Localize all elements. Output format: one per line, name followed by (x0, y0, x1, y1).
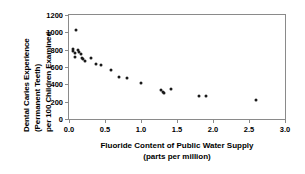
x-axis-tick (249, 119, 250, 123)
x-axis-tick (141, 119, 142, 123)
y-axis-tick (65, 15, 69, 16)
plot-canvas (69, 15, 285, 119)
data-point (255, 98, 258, 101)
y-axis-tick (65, 102, 69, 103)
x-axis-tick-label: 0.0 (64, 125, 74, 134)
y-axis-title-line2: (Permanent Teeth) (33, 64, 42, 132)
data-point (75, 28, 78, 31)
x-axis-tick-label: 0.5 (100, 125, 110, 134)
x-axis-tick (213, 119, 214, 123)
data-point (95, 62, 98, 65)
data-point (118, 76, 121, 79)
x-axis-tick (285, 119, 286, 123)
y-axis-tick-label: 600 (50, 63, 63, 72)
x-axis-tick (105, 119, 106, 123)
data-point (139, 81, 142, 84)
data-point (125, 77, 128, 80)
y-axis-tick-label: 200 (50, 97, 63, 106)
y-axis-tick-label: 400 (50, 80, 63, 89)
y-axis-tick (65, 67, 69, 68)
y-axis-tick-label: 0 (59, 115, 63, 124)
data-point (197, 94, 200, 97)
y-axis-title-line1: Dental Caries Experience (22, 38, 31, 132)
scatter-chart-figure: Dental Caries Experience (Permanent Teet… (0, 0, 305, 174)
x-axis-title-line1: Fluoride Content of Public Water Supply (68, 141, 286, 151)
y-axis-tick (65, 84, 69, 85)
data-point (204, 95, 207, 98)
x-axis-tick-label: 3.0 (280, 125, 290, 134)
y-axis-tick-label: 1000 (46, 28, 63, 37)
y-axis-tick (65, 32, 69, 33)
x-axis-title-line2: (parts per million) (68, 152, 286, 162)
data-point (163, 92, 166, 95)
data-point (89, 57, 92, 60)
x-axis-tick-label: 2.5 (244, 125, 254, 134)
y-axis-tick-label: 800 (50, 45, 63, 54)
y-axis-tick-label: 1200 (46, 11, 63, 20)
data-point (100, 64, 103, 67)
data-point (74, 55, 77, 58)
x-axis-tick-label: 1.5 (172, 125, 182, 134)
data-point (109, 69, 112, 72)
data-point (170, 87, 173, 90)
x-axis-tick-label: 1.0 (136, 125, 146, 134)
y-axis-tick (65, 50, 69, 51)
data-point (79, 53, 82, 56)
data-point (83, 59, 86, 62)
x-axis-tick (177, 119, 178, 123)
x-axis-tick-label: 2.0 (208, 125, 218, 134)
x-axis-tick (69, 119, 70, 123)
plot-area: 0200400600800100012000.00.51.01.52.02.53… (68, 14, 286, 120)
